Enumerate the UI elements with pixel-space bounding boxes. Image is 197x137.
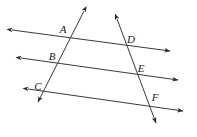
parallel-line-top bbox=[12, 30, 170, 51]
parallel-line-middle bbox=[21, 58, 178, 80]
parallel-line-bottom bbox=[28, 89, 183, 111]
geometry-figure: A B C D E F bbox=[0, 0, 197, 137]
point-label-b: B bbox=[49, 50, 56, 62]
transversal-line-right bbox=[117, 19, 156, 123]
point-label-c: C bbox=[34, 80, 42, 92]
point-label-e: E bbox=[137, 62, 145, 74]
point-label-f: F bbox=[151, 91, 159, 103]
point-label-a: A bbox=[59, 23, 67, 35]
geometry-canvas: A B C D E F bbox=[0, 0, 197, 137]
point-label-d: D bbox=[126, 33, 135, 45]
